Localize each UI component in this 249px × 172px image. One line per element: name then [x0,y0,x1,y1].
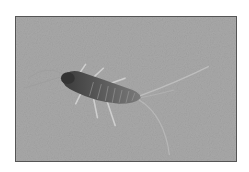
silverfish-photo [16,17,236,161]
photo-frame [15,16,237,162]
caption [0,164,249,172]
